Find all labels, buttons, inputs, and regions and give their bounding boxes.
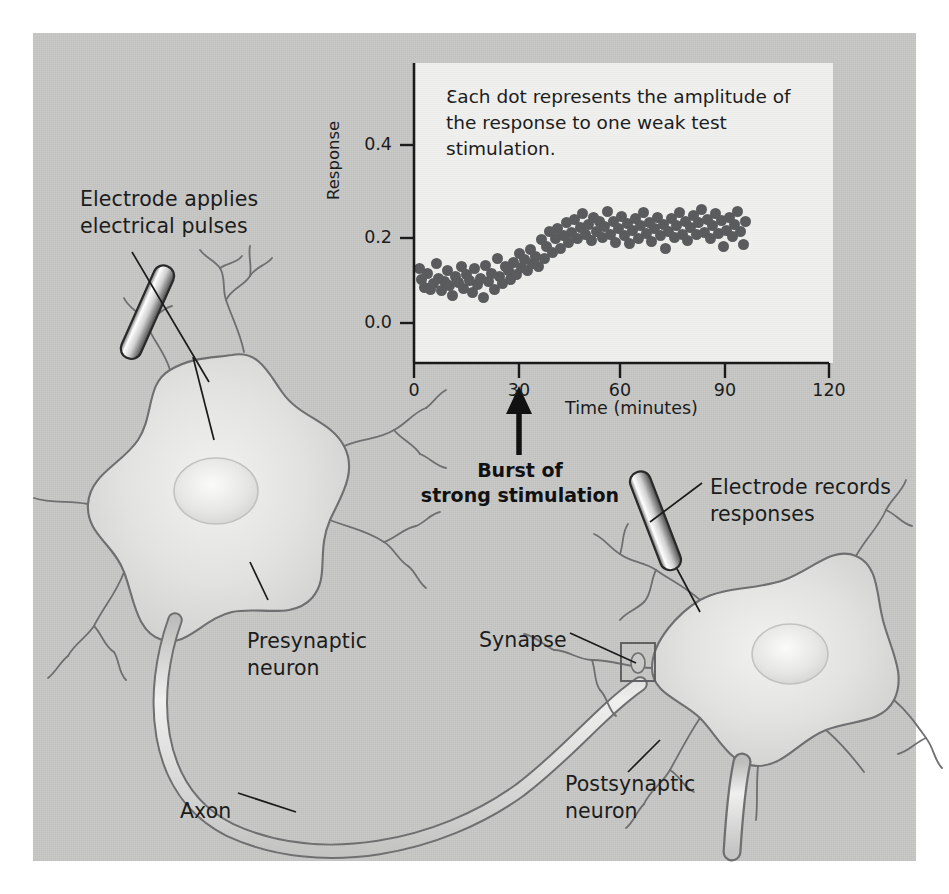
figure-root: Electrode applies electrical pulses Pres… <box>0 0 949 894</box>
y-tick-label-2: 0.0 <box>348 312 392 332</box>
data-point <box>660 243 671 254</box>
synapse-label: Synapse <box>479 627 567 654</box>
y-axis-label: Response <box>324 121 343 200</box>
axon-label: Axon <box>180 798 231 825</box>
scatter-plot-area <box>414 63 833 363</box>
data-point <box>422 268 433 279</box>
x-tick-label-2: 60 <box>595 380 645 400</box>
data-point <box>431 258 442 269</box>
data-point <box>718 241 729 252</box>
x-axis-label: Time (minutes) <box>565 398 698 418</box>
x-tick-label-4: 120 <box>804 380 854 400</box>
data-point <box>735 226 746 237</box>
burst-annotation-label: Burst of strong stimulation <box>400 458 640 508</box>
data-point <box>738 239 749 250</box>
y-tick-label-1: 0.2 <box>348 227 392 247</box>
data-point <box>577 208 588 219</box>
electrode-applies-label: Electrode applies electrical pulses <box>80 186 258 240</box>
presynaptic-neuron-label: Presynaptic neuron <box>247 628 367 682</box>
electrode-records-label: Electrode records responses <box>710 474 891 528</box>
x-tick-label-3: 90 <box>700 380 750 400</box>
y-tick-label-0: 0.4 <box>348 134 392 154</box>
data-point <box>732 206 743 217</box>
x-tick-label-1: 30 <box>494 380 544 400</box>
data-point <box>478 292 489 303</box>
data-point <box>447 290 458 301</box>
postsynaptic-neuron-label: Postsynaptic neuron <box>565 771 695 825</box>
x-tick-label-0: 0 <box>389 380 439 400</box>
data-point <box>740 216 751 227</box>
